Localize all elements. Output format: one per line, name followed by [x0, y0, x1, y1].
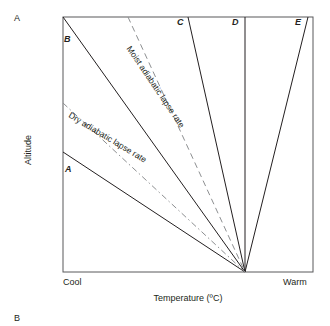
adiabatic-lapse-rate-diagram	[0, 0, 330, 326]
curve-label-c: C	[177, 17, 184, 27]
curve-label-b: B	[64, 34, 71, 44]
x-axis-tick-warm: Warm	[283, 277, 307, 287]
curve-label-d: D	[232, 17, 239, 27]
plot-frame	[63, 17, 313, 272]
curve-label-e: E	[295, 17, 301, 27]
figure-panel-a: A B A B C D E Dry adiabatic lapse rate M…	[0, 0, 330, 326]
x-axis-title: Temperature (ºC)	[63, 293, 313, 303]
y-axis-title: Altitude	[23, 114, 33, 186]
curve-label-a: A	[65, 164, 72, 174]
x-axis-tick-cool: Cool	[63, 277, 82, 287]
